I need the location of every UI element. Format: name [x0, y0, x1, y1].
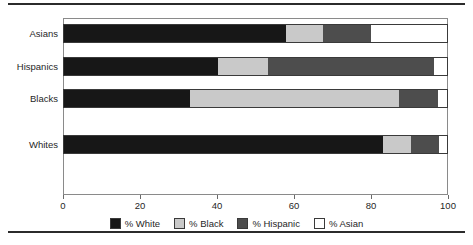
- x-axis-tick: [140, 195, 141, 199]
- bar-segment[interactable]: [63, 135, 383, 154]
- x-axis-tick: [448, 195, 449, 199]
- top-horizontal-rule: [8, 3, 465, 5]
- bar-segment[interactable]: [383, 135, 411, 154]
- bar-segment[interactable]: [286, 24, 323, 43]
- stacked-bar[interactable]: [63, 57, 448, 76]
- legend-label: % Black: [189, 218, 223, 229]
- x-axis-tick-label: 100: [440, 200, 456, 211]
- bar-row: [63, 24, 448, 43]
- bar-row: [63, 57, 448, 76]
- chart-figure: AsiansHispanicsBlacksWhites 020406080100…: [0, 10, 473, 225]
- y-axis-label-blacks: Blacks: [0, 89, 58, 108]
- x-axis-tick-label: 40: [212, 200, 223, 211]
- stacked-bar[interactable]: [63, 89, 448, 108]
- bar-segment[interactable]: [63, 57, 218, 76]
- bar-segment[interactable]: [439, 135, 448, 154]
- bar-row: [63, 135, 448, 154]
- legend-swatch-icon: [237, 218, 248, 229]
- legend-swatch-icon: [314, 218, 325, 229]
- bar-segment[interactable]: [63, 89, 190, 108]
- legend-item[interactable]: % White: [110, 218, 160, 229]
- stacked-bar[interactable]: [63, 135, 448, 154]
- bar-segment[interactable]: [323, 24, 370, 43]
- legend-item[interactable]: % Black: [174, 218, 223, 229]
- bars-container: [63, 18, 448, 195]
- y-axis-label-hispanics: Hispanics: [0, 57, 58, 76]
- bottom-horizontal-rule: [8, 231, 465, 233]
- bar-segment[interactable]: [434, 57, 448, 76]
- legend-label: % Hispanic: [252, 218, 300, 229]
- bar-segment[interactable]: [438, 89, 448, 108]
- stacked-bar[interactable]: [63, 24, 448, 43]
- x-axis-tick-label: 0: [60, 200, 65, 211]
- y-axis-label-whites: Whites: [0, 135, 58, 154]
- bar-segment[interactable]: [190, 89, 399, 108]
- bar-row: [63, 89, 448, 108]
- legend-label: % Asian: [329, 218, 363, 229]
- y-axis-label-asians: Asians: [0, 24, 58, 43]
- x-axis-tick: [63, 195, 64, 199]
- bar-segment[interactable]: [399, 89, 438, 108]
- x-axis-tick-label: 80: [366, 200, 377, 211]
- bar-segment[interactable]: [371, 24, 448, 43]
- bar-segment[interactable]: [268, 57, 434, 76]
- chart-legend: % White% Black% Hispanic% Asian: [0, 215, 473, 231]
- legend-item[interactable]: % Hispanic: [237, 218, 300, 229]
- legend-swatch-icon: [174, 218, 185, 229]
- legend-item[interactable]: % Asian: [314, 218, 363, 229]
- x-axis-tick-label: 20: [135, 200, 146, 211]
- x-axis-tick-label: 60: [289, 200, 300, 211]
- x-axis: 020406080100: [63, 195, 448, 213]
- y-axis-category-labels: AsiansHispanicsBlacksWhites: [0, 18, 58, 195]
- legend-label: % White: [125, 218, 160, 229]
- bar-segment[interactable]: [218, 57, 268, 76]
- x-axis-tick: [294, 195, 295, 199]
- legend-swatch-icon: [110, 218, 121, 229]
- x-axis-tick: [371, 195, 372, 199]
- x-axis-tick: [217, 195, 218, 199]
- bar-segment[interactable]: [63, 24, 286, 43]
- bar-segment[interactable]: [411, 135, 439, 154]
